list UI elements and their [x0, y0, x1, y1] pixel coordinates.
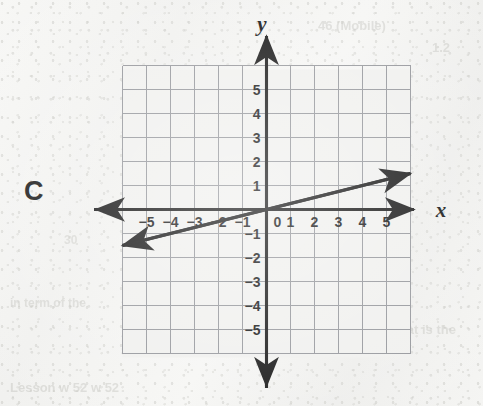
y-tick-label: −2: [245, 250, 261, 266]
y-tick-label: −1: [245, 226, 261, 242]
x-tick-label: 1: [287, 214, 295, 230]
worksheet-page: 46 (Mobile)1.230the perimeterof the rect…: [0, 0, 483, 406]
x-tick-label: −5: [139, 214, 155, 230]
coordinate-graph: x y −5−4−3−2−1012345 54321−1−2−3−4−5: [0, 0, 483, 406]
x-tick-label: −4: [163, 214, 179, 230]
x-tick-label: 4: [359, 214, 367, 230]
y-tick-label: −4: [245, 298, 261, 314]
y-tick-label: 2: [253, 154, 261, 170]
y-tick-label: 3: [253, 130, 261, 146]
x-tick-label: 2: [311, 214, 319, 230]
x-axis-label: x: [435, 198, 447, 222]
y-axis-label: y: [254, 12, 267, 36]
y-tick-label: 4: [253, 106, 261, 122]
y-tick-label: −5: [245, 322, 261, 338]
x-tick-label: 0: [274, 214, 282, 230]
x-tick-label: 5: [383, 214, 391, 230]
y-tick-label: −3: [245, 274, 261, 290]
y-tick-label: 1: [253, 178, 261, 194]
x-tick-label: 3: [335, 214, 343, 230]
y-tick-label: 5: [253, 82, 261, 98]
